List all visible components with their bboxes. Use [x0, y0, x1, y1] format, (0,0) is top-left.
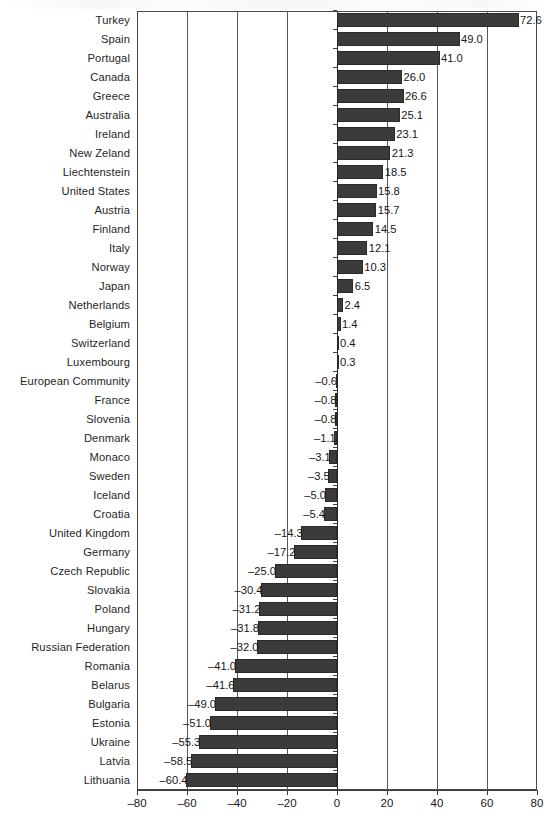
bar [337, 336, 339, 350]
row-tick [333, 238, 337, 239]
bar [337, 279, 353, 293]
bar-row: Belgium1.4 [0, 315, 552, 334]
row-tick [333, 48, 337, 49]
category-label: Croatia [0, 505, 130, 524]
row-tick [333, 181, 337, 182]
value-label: –5.4 [303, 505, 325, 524]
row-tick [333, 504, 337, 505]
value-label: 6.5 [355, 277, 371, 296]
row-tick [333, 523, 337, 524]
value-label: –32.0 [231, 638, 259, 657]
bar [261, 583, 337, 597]
category-label: Monaco [0, 448, 130, 467]
row-tick [333, 200, 337, 201]
bar-row: Germany–17.2 [0, 543, 552, 562]
row-tick [333, 580, 337, 581]
value-label: –41.6 [207, 676, 235, 695]
bar [324, 507, 338, 521]
value-label: –25.0 [248, 562, 276, 581]
bar-row: Sweden–3.5 [0, 467, 552, 486]
bar-row: Russian Federation–32.0 [0, 638, 552, 657]
row-tick [333, 371, 337, 372]
bar [337, 146, 390, 160]
row-tick [333, 10, 337, 11]
bar [233, 678, 337, 692]
bar [257, 640, 337, 654]
value-label: –41.0 [208, 657, 236, 676]
value-label: –30.4 [235, 581, 263, 600]
bar [325, 488, 338, 502]
category-label: Canada [0, 68, 130, 87]
value-label: 21.3 [392, 144, 414, 163]
category-label: Italy [0, 239, 130, 258]
bar-row: Canada26.0 [0, 68, 552, 87]
bar [337, 51, 440, 65]
bar-row: Poland–31.2 [0, 600, 552, 619]
row-tick [333, 29, 337, 30]
value-label: –1.1 [314, 429, 336, 448]
bar-row: European Community–0.6 [0, 372, 552, 391]
value-label: 0.4 [340, 334, 356, 353]
category-label: Ireland [0, 125, 130, 144]
category-label: Finland [0, 220, 130, 239]
value-label: 15.7 [378, 201, 400, 220]
category-label: Liechtenstein [0, 163, 130, 182]
horizontal-bar-chart: Turkey72.6Spain49.0Portugal41.0Canada26.… [0, 0, 552, 829]
scan-artifact [0, 0, 552, 9]
row-tick [333, 656, 337, 657]
row-tick [333, 447, 337, 448]
row-tick [333, 561, 337, 562]
row-tick [333, 637, 337, 638]
row-tick [333, 751, 337, 752]
bar [337, 108, 400, 122]
category-label: Netherlands [0, 296, 130, 315]
value-label: –31.8 [231, 619, 259, 638]
bar [191, 754, 337, 768]
bar [337, 165, 383, 179]
row-tick [333, 124, 337, 125]
x-tick [437, 790, 438, 795]
category-label: Slovakia [0, 581, 130, 600]
x-tick [537, 790, 538, 795]
bar [337, 317, 341, 331]
category-label: Greece [0, 87, 130, 106]
bar-row: Austria15.7 [0, 201, 552, 220]
row-tick [333, 485, 337, 486]
category-label: Japan [0, 277, 130, 296]
x-tick [387, 790, 388, 795]
bar-row: Norway10.3 [0, 258, 552, 277]
value-label: –0.6 [315, 372, 337, 391]
category-label: Austria [0, 201, 130, 220]
row-tick [333, 352, 337, 353]
bar-row: Monaco–3.1 [0, 448, 552, 467]
bar-row: Spain49.0 [0, 30, 552, 49]
bar-row: Turkey72.6 [0, 11, 552, 30]
value-label: 1.4 [342, 315, 358, 334]
bar-row: Czech Republic–25.0 [0, 562, 552, 581]
bar-row: Italy12.1 [0, 239, 552, 258]
bar-row: New Zeland21.3 [0, 144, 552, 163]
bar [259, 602, 337, 616]
x-tick [137, 790, 138, 795]
value-label: 12.1 [369, 239, 391, 258]
category-label: Slovenia [0, 410, 130, 429]
category-label: Iceland [0, 486, 130, 505]
category-label: Denmark [0, 429, 130, 448]
category-label: Norway [0, 258, 130, 277]
category-label: Romania [0, 657, 130, 676]
value-label: –60.4 [160, 771, 188, 790]
value-label: –5.0 [304, 486, 326, 505]
row-tick [333, 86, 337, 87]
category-label: Russian Federation [0, 638, 130, 657]
x-tick [487, 790, 488, 795]
bar [337, 184, 377, 198]
bar-row: Latvia–58.5 [0, 752, 552, 771]
bar [337, 222, 373, 236]
bar-row: Liechtenstein18.5 [0, 163, 552, 182]
category-label: Sweden [0, 467, 130, 486]
category-label: Turkey [0, 11, 130, 30]
value-label: 10.3 [364, 258, 386, 277]
value-label: 14.5 [375, 220, 397, 239]
category-label: New Zeland [0, 144, 130, 163]
row-tick [333, 409, 337, 410]
